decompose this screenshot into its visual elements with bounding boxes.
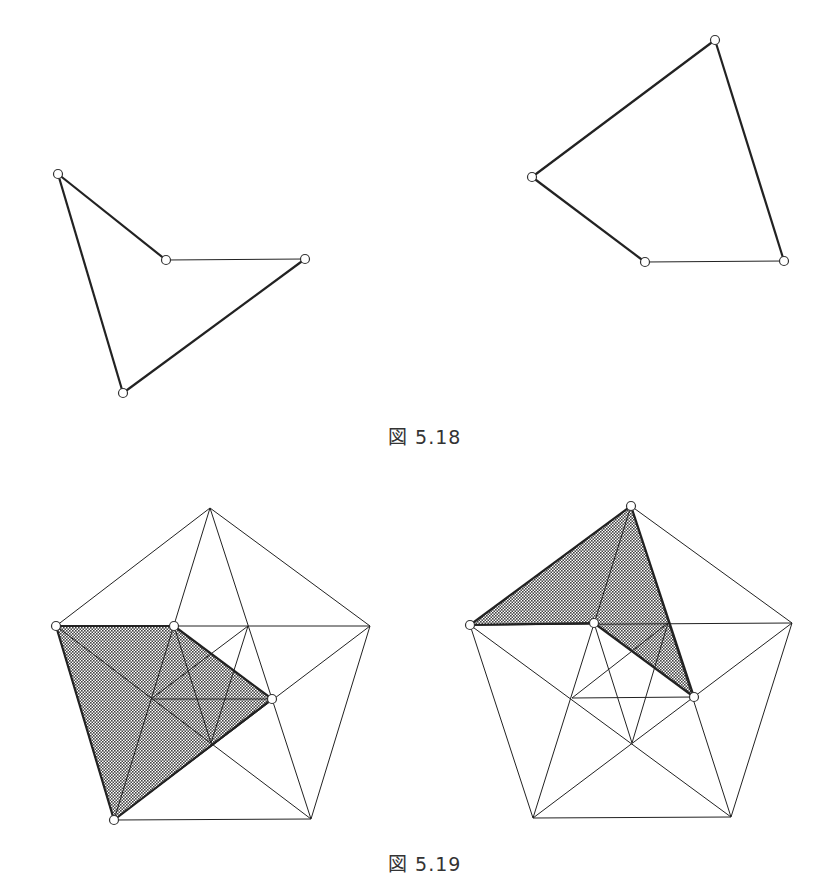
pentagon-edge	[470, 625, 533, 818]
convex-quadrilateral-edge	[532, 177, 645, 262]
pentagon-edge	[533, 817, 731, 818]
vertex-marker	[711, 36, 720, 45]
concave-quadrilateral-edge	[58, 174, 123, 393]
concave-quadrilateral-edge	[58, 174, 166, 260]
vertex-marker	[110, 816, 119, 825]
vertex-marker	[641, 258, 650, 267]
convex-quadrilateral-edge	[532, 40, 715, 177]
pentagon-edge	[114, 819, 311, 820]
vertex-marker	[268, 695, 277, 704]
convex-quadrilateral-edge	[645, 261, 784, 262]
pentagon-edge	[731, 623, 792, 817]
caption-figure-5-18: 図 5.18	[388, 422, 461, 449]
pentagon-edge	[210, 508, 370, 626]
vertex-marker	[52, 622, 61, 631]
vertex-marker	[528, 173, 537, 182]
vertex-marker	[119, 389, 128, 398]
vertex-marker	[466, 621, 475, 630]
vertex-marker	[690, 693, 699, 702]
figure-5-19	[52, 502, 793, 825]
pentagon-edge	[311, 626, 370, 819]
figure-5-18	[54, 36, 789, 398]
inner-diagonal	[572, 697, 694, 698]
vertex-marker	[54, 170, 63, 179]
vertex-marker	[780, 257, 789, 266]
vertex-marker	[170, 622, 179, 631]
convex-quadrilateral-edge	[715, 40, 784, 261]
vertex-marker	[590, 619, 599, 628]
vertex-marker	[162, 256, 171, 265]
concave-quadrilateral-edge	[166, 259, 305, 260]
caption-figure-5-19: 図 5.19	[388, 849, 461, 876]
left-pentagon	[52, 508, 371, 825]
pentagon-diagonal	[470, 625, 731, 817]
concave-quadrilateral-edge	[123, 259, 305, 393]
vertex-marker	[301, 255, 310, 264]
pentagon-edge	[56, 508, 210, 626]
vertex-marker	[627, 502, 636, 511]
right-pentagon	[466, 502, 793, 819]
